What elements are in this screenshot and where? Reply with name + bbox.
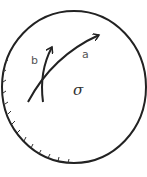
label-b: b bbox=[31, 54, 38, 67]
path-a-arrow bbox=[28, 35, 99, 102]
label-a: a bbox=[82, 48, 89, 61]
hatch-marks bbox=[3, 60, 69, 163]
diagram-canvas: a b σ bbox=[0, 0, 147, 177]
center-symbol: σ bbox=[73, 81, 84, 99]
